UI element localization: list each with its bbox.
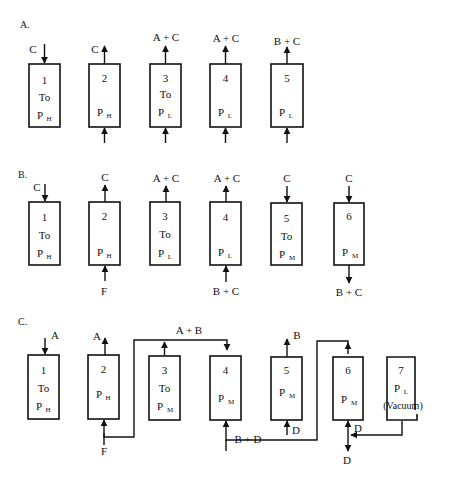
svg-text:F: F bbox=[101, 445, 107, 457]
svg-text:2: 2 bbox=[101, 363, 107, 375]
svg-text:4: 4 bbox=[223, 364, 229, 376]
svg-text:P: P bbox=[341, 393, 347, 405]
unit-b6: 6 P M C B + C bbox=[334, 172, 364, 298]
svg-text:A + C: A + C bbox=[153, 31, 179, 43]
svg-text:H: H bbox=[106, 252, 111, 260]
svg-text:A + C: A + C bbox=[214, 172, 240, 184]
svg-text:A + C: A + C bbox=[153, 172, 179, 184]
svg-text:P: P bbox=[36, 400, 42, 412]
svg-text:7: 7 bbox=[398, 364, 404, 376]
svg-text:P: P bbox=[279, 386, 285, 398]
svg-text:B + D: B + D bbox=[235, 433, 262, 445]
section-b-label: B. bbox=[18, 169, 27, 180]
section-c-label: C. bbox=[18, 316, 27, 327]
section-a: A. 1 To P H C 2 P H C 3 To P L bbox=[20, 19, 303, 143]
svg-text:L: L bbox=[168, 112, 172, 120]
unit-c7: 7 P L (Vacuum) bbox=[383, 357, 422, 420]
section-a-label: A. bbox=[20, 19, 30, 30]
svg-text:C: C bbox=[29, 43, 36, 55]
unit-b1: 1 To P H C bbox=[29, 181, 60, 265]
svg-text:P: P bbox=[279, 106, 285, 118]
svg-text:P: P bbox=[218, 106, 224, 118]
svg-text:P: P bbox=[342, 246, 348, 258]
unit-c4: 4 P M bbox=[210, 356, 241, 420]
svg-text:C: C bbox=[91, 43, 98, 55]
svg-text:F: F bbox=[101, 285, 107, 297]
svg-text:M: M bbox=[289, 254, 296, 262]
svg-text:To: To bbox=[38, 382, 50, 394]
svg-text:L: L bbox=[228, 112, 232, 120]
unit-a4: 4 P L A + C bbox=[210, 32, 241, 143]
svg-text:C: C bbox=[283, 172, 290, 184]
svg-text:5: 5 bbox=[284, 364, 290, 376]
unit-c2: 2 P H A F bbox=[88, 330, 119, 457]
svg-text:M: M bbox=[167, 406, 174, 414]
unit-b5: 5 To P M C bbox=[271, 172, 302, 265]
svg-text:P: P bbox=[279, 248, 285, 260]
svg-text:P: P bbox=[37, 247, 43, 259]
svg-text:6: 6 bbox=[345, 364, 351, 376]
svg-text:D: D bbox=[354, 422, 362, 434]
svg-text:4: 4 bbox=[223, 211, 229, 223]
svg-text:M: M bbox=[289, 392, 296, 400]
svg-text:2: 2 bbox=[102, 210, 108, 222]
svg-text:4: 4 bbox=[223, 72, 229, 84]
svg-text:A + B: A + B bbox=[176, 324, 202, 336]
unit-b2: 2 P H C F bbox=[89, 171, 120, 297]
svg-text:C: C bbox=[101, 171, 108, 183]
svg-text:L: L bbox=[404, 388, 408, 396]
svg-text:L: L bbox=[289, 112, 293, 120]
svg-text:5: 5 bbox=[284, 212, 290, 224]
svg-text:3: 3 bbox=[162, 364, 168, 376]
svg-text:P: P bbox=[218, 392, 224, 404]
process-diagram: A. 1 To P H C 2 P H C 3 To P L bbox=[0, 0, 451, 482]
svg-text:To: To bbox=[39, 91, 51, 103]
section-c: C. A + B B + D D 1 To P H A 2 P H A bbox=[18, 316, 423, 466]
svg-text:P: P bbox=[394, 382, 400, 394]
svg-text:P: P bbox=[37, 109, 43, 121]
svg-text:H: H bbox=[45, 406, 50, 414]
svg-text:1: 1 bbox=[42, 74, 48, 86]
svg-text:A + C: A + C bbox=[213, 32, 239, 44]
svg-text:1: 1 bbox=[42, 211, 48, 223]
svg-text:D: D bbox=[292, 424, 300, 436]
unit-c1: 1 To P H A bbox=[28, 329, 59, 419]
svg-text:B + C: B + C bbox=[213, 285, 239, 297]
svg-text:C: C bbox=[33, 181, 40, 193]
svg-text:To: To bbox=[160, 88, 172, 100]
svg-text:P: P bbox=[158, 247, 164, 259]
unit-b3: 3 To P L A + C bbox=[150, 172, 180, 265]
svg-text:5: 5 bbox=[284, 72, 290, 84]
svg-text:P: P bbox=[96, 388, 102, 400]
unit-a5: 5 P L B + C bbox=[271, 35, 303, 143]
svg-text:H: H bbox=[46, 253, 51, 261]
svg-text:H: H bbox=[106, 112, 111, 120]
svg-text:P: P bbox=[158, 106, 164, 118]
svg-text:P: P bbox=[97, 246, 103, 258]
unit-a1: 1 To P H C bbox=[29, 43, 60, 127]
svg-text:A: A bbox=[93, 330, 101, 342]
svg-text:L: L bbox=[228, 252, 232, 260]
svg-text:(Vacuum): (Vacuum) bbox=[383, 400, 422, 412]
svg-text:P: P bbox=[218, 246, 224, 258]
svg-text:B + C: B + C bbox=[274, 35, 300, 47]
section-b: B. 1 To P H C 2 P H C F 3 To P bbox=[18, 169, 364, 298]
unit-a3: 3 To P L A + C bbox=[150, 31, 181, 143]
unit-c6: 6 P M D bbox=[333, 357, 363, 466]
svg-text:To: To bbox=[159, 382, 171, 394]
svg-text:L: L bbox=[168, 253, 172, 261]
svg-text:3: 3 bbox=[163, 72, 169, 84]
svg-text:H: H bbox=[46, 115, 51, 123]
unit-b4: 4 P L A + C B + C bbox=[210, 172, 241, 297]
svg-text:C: C bbox=[345, 172, 352, 184]
svg-text:P: P bbox=[97, 106, 103, 118]
svg-text:To: To bbox=[39, 229, 51, 241]
svg-text:To: To bbox=[281, 230, 293, 242]
svg-text:M: M bbox=[351, 399, 358, 407]
svg-text:P: P bbox=[157, 400, 163, 412]
svg-text:H: H bbox=[105, 394, 110, 402]
svg-text:A: A bbox=[51, 329, 59, 341]
svg-text:M: M bbox=[228, 398, 235, 406]
unit-c5: 5 P M B D bbox=[271, 329, 302, 436]
svg-text:B + C: B + C bbox=[336, 286, 362, 298]
